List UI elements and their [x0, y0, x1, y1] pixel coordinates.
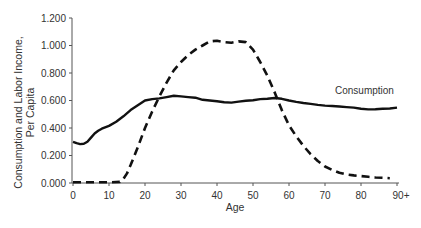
- x-tick-label: 40: [211, 190, 223, 201]
- series-labor-income-line: [73, 41, 390, 183]
- axes: [72, 18, 399, 183]
- y-tick-label: 0.400: [41, 123, 66, 134]
- x-axis-title: Age: [226, 201, 245, 213]
- x-tick-label: 10: [103, 190, 115, 201]
- y-tick-label: 0.200: [41, 150, 66, 161]
- x-tick-label: 0: [70, 190, 76, 201]
- y-tick-label: 0.800: [41, 68, 66, 79]
- y-tick-label: 0.600: [41, 95, 66, 106]
- x-tick-label: 60: [283, 190, 295, 201]
- series-layer: [73, 41, 397, 183]
- y-tick-label: 0.000: [41, 178, 66, 189]
- y-axis-title-line: Consumption and Labor Income,: [12, 36, 24, 188]
- y-axis-title: Consumption and Labor Income,Per Capita: [12, 36, 36, 188]
- x-tick-label: 30: [175, 190, 187, 201]
- y-axis-title-line: Per Capita: [24, 88, 36, 138]
- x-tick-label: 20: [139, 190, 151, 201]
- x-tick-label: 80: [355, 190, 367, 201]
- series-consumption-line: [73, 96, 397, 144]
- y-tick-label: 1.200: [41, 13, 66, 24]
- annotation-consumption-label: Consumption: [335, 85, 394, 96]
- x-tick-label: 90+: [393, 190, 410, 201]
- annotations: Consumption: [335, 85, 394, 96]
- y-tick-label: 1.000: [41, 40, 66, 51]
- x-tick-label: 50: [247, 190, 259, 201]
- x-tick-label: 70: [319, 190, 331, 201]
- chart: Consumption and Labor Income,Per Capita …: [0, 0, 421, 228]
